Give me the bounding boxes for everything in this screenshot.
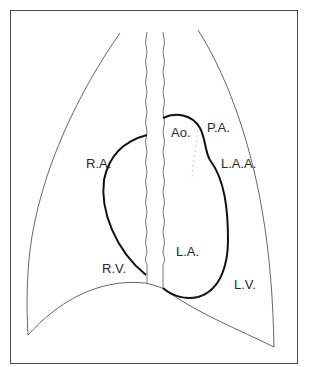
label-left-atrium: L.A. — [176, 245, 199, 258]
heart-left-border — [163, 115, 228, 298]
label-left-atrial-appendage: L.A.A. — [221, 157, 256, 170]
right-lung-outline — [162, 30, 274, 347]
label-right-ventricle: R.V. — [102, 262, 126, 275]
chest-diagram — [0, 0, 310, 367]
left-lung-outline — [27, 33, 145, 335]
label-pulmonary-artery: P.A. — [207, 121, 230, 134]
diaphragm — [145, 283, 162, 288]
label-aorta: Ao. — [171, 126, 191, 139]
spine-right-edge — [163, 32, 165, 288]
spine-left-edge — [146, 32, 148, 284]
label-right-atrium: R.A. — [86, 157, 111, 170]
label-left-ventricle: L.V. — [234, 278, 256, 291]
aorta-dotted-line — [192, 130, 198, 178]
